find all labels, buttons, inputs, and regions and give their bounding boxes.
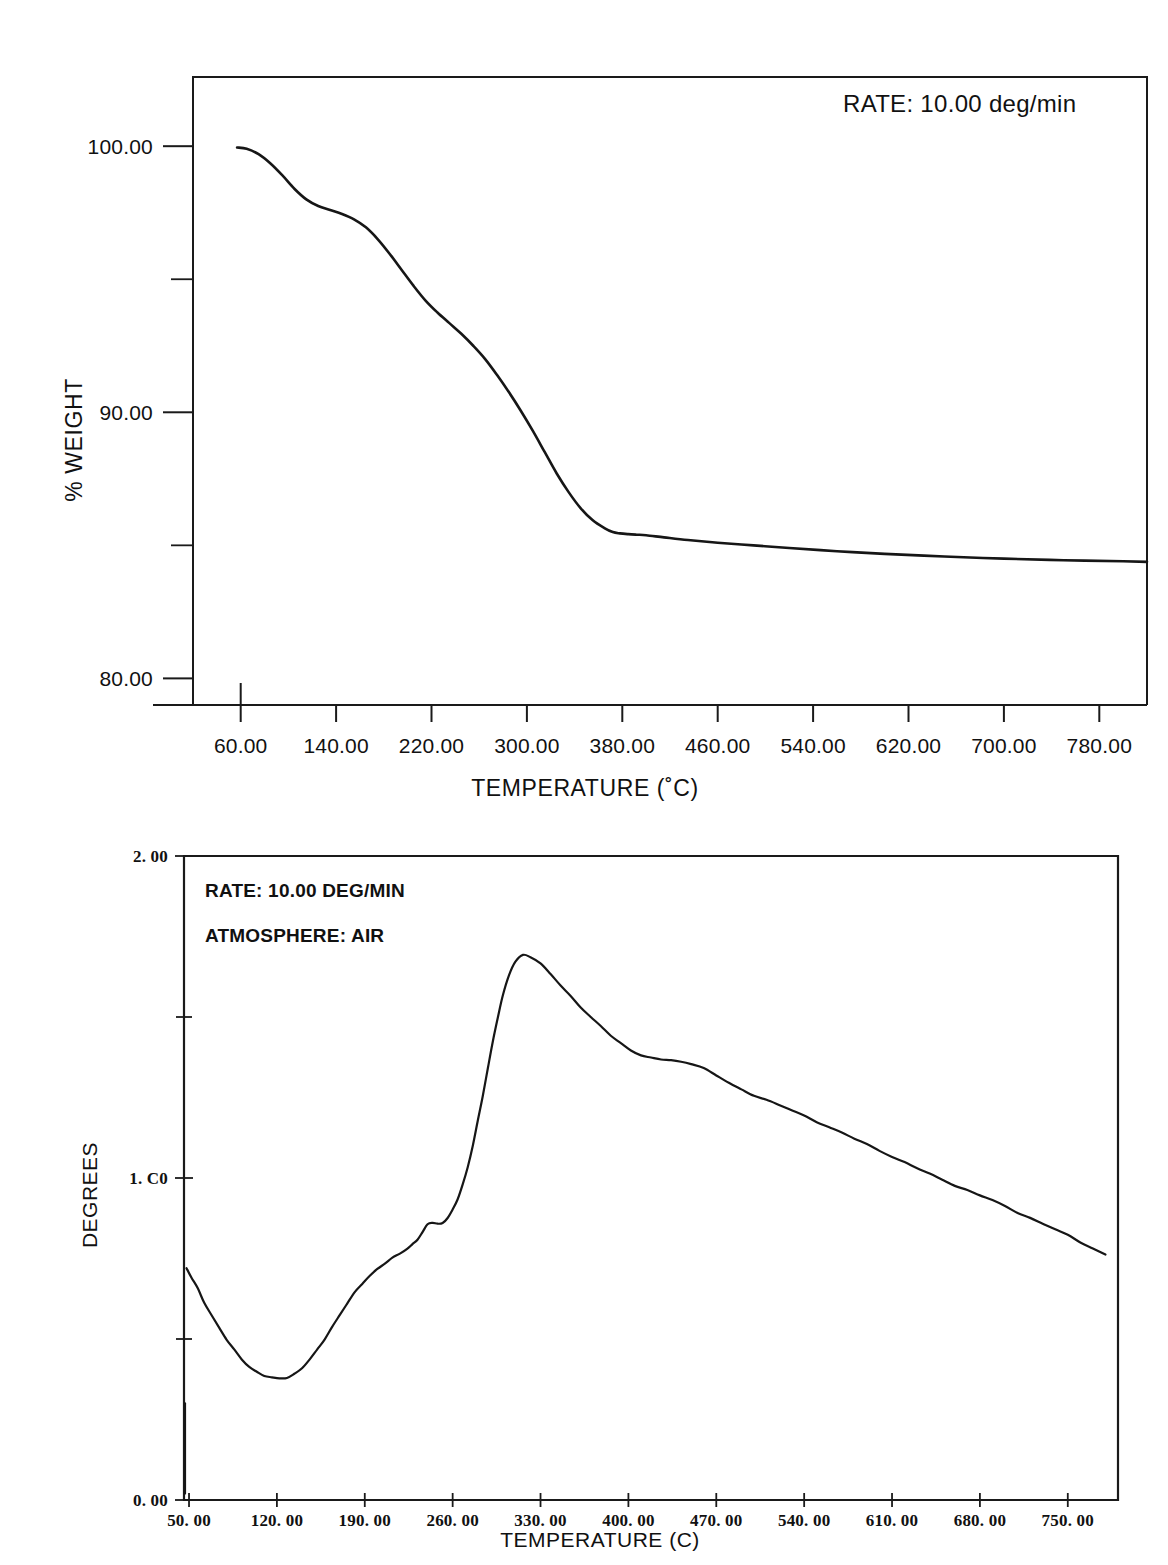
dta-chart: 50. 00120. 00190. 00260. 00330. 00400. 0… bbox=[0, 825, 1168, 1565]
dta-y-tick-label: 2. 00 bbox=[133, 847, 168, 866]
dta-x-tick-label: 120. 00 bbox=[251, 1511, 303, 1530]
tga-x-tick-label: 460.00 bbox=[685, 734, 750, 757]
dta-x-tick-label: 50. 00 bbox=[167, 1511, 211, 1530]
dta-x-tick-label: 540. 00 bbox=[778, 1511, 830, 1530]
tga-x-tick-label: 700.00 bbox=[971, 734, 1036, 757]
tga-x-tick-label: 620.00 bbox=[876, 734, 941, 757]
dta-y-tick-label: 1. C0 bbox=[129, 1169, 168, 1188]
thermal-analysis-figure: 60.00140.00220.00300.00380.00460.00540.0… bbox=[0, 0, 1168, 1565]
dta-background bbox=[0, 825, 1168, 1565]
tga-y-tick-label: 90.00 bbox=[99, 401, 153, 424]
dta-x-tick-label: 190. 00 bbox=[339, 1511, 391, 1530]
tga-x-tick-label: 220.00 bbox=[399, 734, 464, 757]
tga-chart: 60.00140.00220.00300.00380.00460.00540.0… bbox=[0, 0, 1168, 825]
tga-x-tick-label: 780.00 bbox=[1067, 734, 1132, 757]
dta-y-tick-label: 0. 00 bbox=[133, 1491, 168, 1510]
tga-x-tick-label: 540.00 bbox=[780, 734, 845, 757]
dta-rate-annotation: RATE: 10.00 DEG/MIN bbox=[205, 880, 405, 901]
tga-rate-annotation: RATE: 10.00 deg/min bbox=[843, 90, 1076, 117]
dta-x-tick-label: 610. 00 bbox=[866, 1511, 918, 1530]
dta-x-axis-title: TEMPERATURE (C) bbox=[500, 1528, 700, 1551]
tga-x-tick-label: 300.00 bbox=[494, 734, 559, 757]
dta-x-tick-label: 680. 00 bbox=[954, 1511, 1006, 1530]
tga-y-axis-title: % WEIGHT bbox=[61, 378, 87, 502]
tga-chart-panel: 60.00140.00220.00300.00380.00460.00540.0… bbox=[0, 0, 1168, 825]
tga-x-axis-title: TEMPERATURE (˚C) bbox=[471, 775, 699, 801]
tga-y-tick-label: 80.00 bbox=[99, 667, 153, 690]
dta-atmosphere-annotation: ATMOSPHERE: AIR bbox=[205, 925, 384, 946]
dta-x-tick-label: 260. 00 bbox=[426, 1511, 478, 1530]
tga-x-tick-label: 380.00 bbox=[590, 734, 655, 757]
tga-x-tick-label: 60.00 bbox=[214, 734, 268, 757]
dta-x-tick-label: 750. 00 bbox=[1042, 1511, 1094, 1530]
dta-y-axis-title: DEGREES bbox=[78, 1142, 101, 1248]
dta-chart-panel: 50. 00120. 00190. 00260. 00330. 00400. 0… bbox=[0, 825, 1168, 1565]
tga-y-tick-label: 100.00 bbox=[88, 135, 153, 158]
tga-x-tick-label: 140.00 bbox=[303, 734, 368, 757]
